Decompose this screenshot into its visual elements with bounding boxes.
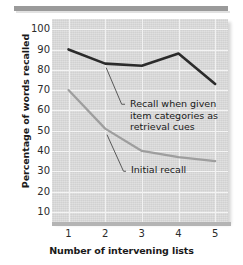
x-tick-label: 1: [65, 228, 71, 239]
y-axis-tick-labels: 102030405060708090100: [22, 19, 50, 222]
x-tick-label: 3: [139, 228, 145, 239]
y-tick-label: 50: [37, 126, 50, 136]
top-decorative-rule: [14, 6, 228, 11]
x-tick-label: 2: [102, 228, 108, 239]
chart-figure: Percentage of words recalled 10203040506…: [0, 0, 243, 265]
y-tick-label: 40: [37, 146, 50, 156]
y-tick-label: 80: [37, 65, 50, 75]
x-axis-title: Number of intervening lists: [0, 245, 243, 256]
y-tick-label: 90: [37, 45, 50, 55]
y-tick-label: 20: [37, 187, 50, 197]
y-tick-label: 70: [37, 85, 50, 95]
y-tick-label: 60: [37, 105, 50, 115]
annotation-initial-recall: Initial recall: [131, 164, 221, 176]
annotation-cued-recall: Recall when given item categories as ret…: [130, 98, 230, 133]
x-axis-tick-labels: 12345: [52, 228, 228, 242]
y-tick-label: 30: [37, 166, 50, 176]
y-tick-label: 10: [37, 207, 50, 217]
x-tick-label: 5: [212, 228, 218, 239]
series-line-cued-recall: [69, 49, 216, 84]
y-tick-label: 100: [31, 24, 50, 34]
x-axis-baseline: [52, 222, 231, 226]
x-tick-label: 4: [175, 228, 181, 239]
